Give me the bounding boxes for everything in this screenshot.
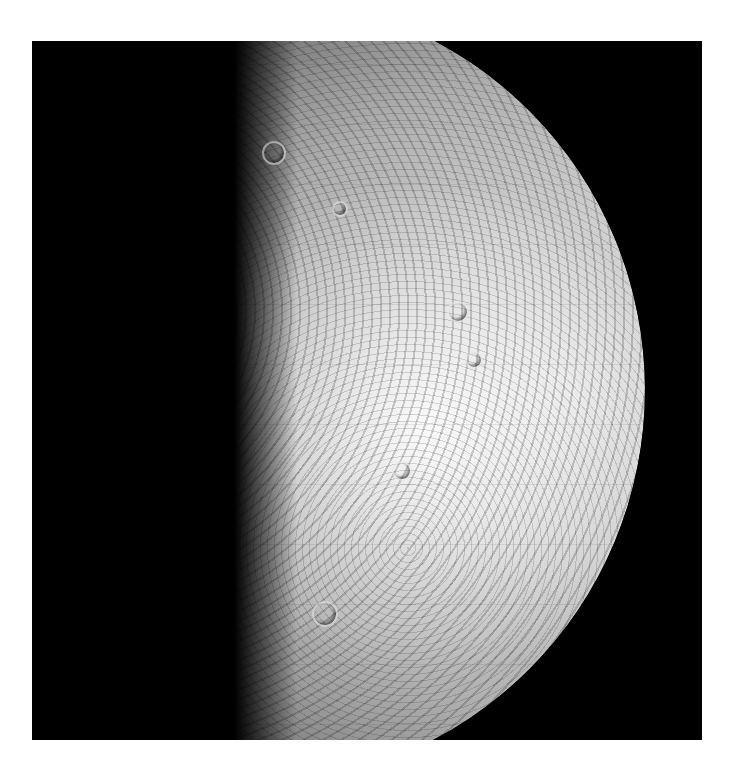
cratered-surface-texture bbox=[32, 41, 645, 740]
crater bbox=[312, 601, 338, 627]
crater bbox=[465, 351, 483, 369]
crater bbox=[392, 461, 412, 481]
crater bbox=[262, 141, 286, 165]
space-background bbox=[32, 41, 702, 740]
crater bbox=[447, 301, 469, 323]
crater bbox=[332, 201, 348, 217]
mercury-planet bbox=[32, 41, 645, 740]
